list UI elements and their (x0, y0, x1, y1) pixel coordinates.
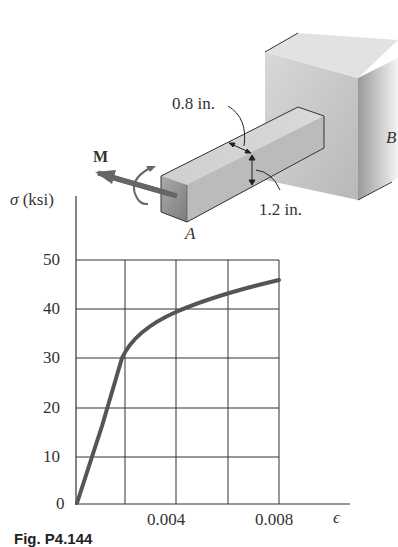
y-axis-unit: (ksi) (23, 190, 54, 209)
stress-strain-chart (76, 196, 350, 505)
height-dimension-label: 1.2 in. (259, 200, 302, 220)
width-dimension-label: 0.8 in. (172, 94, 215, 114)
x-tick-0.008: 0.008 (255, 510, 293, 530)
x-axis-label: ϵ (333, 508, 340, 528)
y-tick-0: 0 (56, 494, 65, 514)
stress-strain-curve (77, 280, 279, 503)
y-axis-label: σ (ksi) (10, 190, 54, 210)
y-tick-20: 20 (43, 398, 60, 418)
end-a-label: A (185, 224, 195, 244)
figure-caption: Fig. P4.144 (14, 530, 92, 547)
moment-label: M (93, 148, 108, 166)
end-b-label: B (386, 128, 396, 148)
y-tick-50: 50 (43, 250, 60, 270)
grid (76, 260, 279, 504)
y-tick-10: 10 (43, 447, 60, 467)
sigma-symbol: σ (10, 190, 18, 209)
y-tick-30: 30 (43, 348, 60, 368)
x-tick-0.004: 0.004 (147, 510, 185, 530)
y-tick-40: 40 (43, 299, 60, 319)
